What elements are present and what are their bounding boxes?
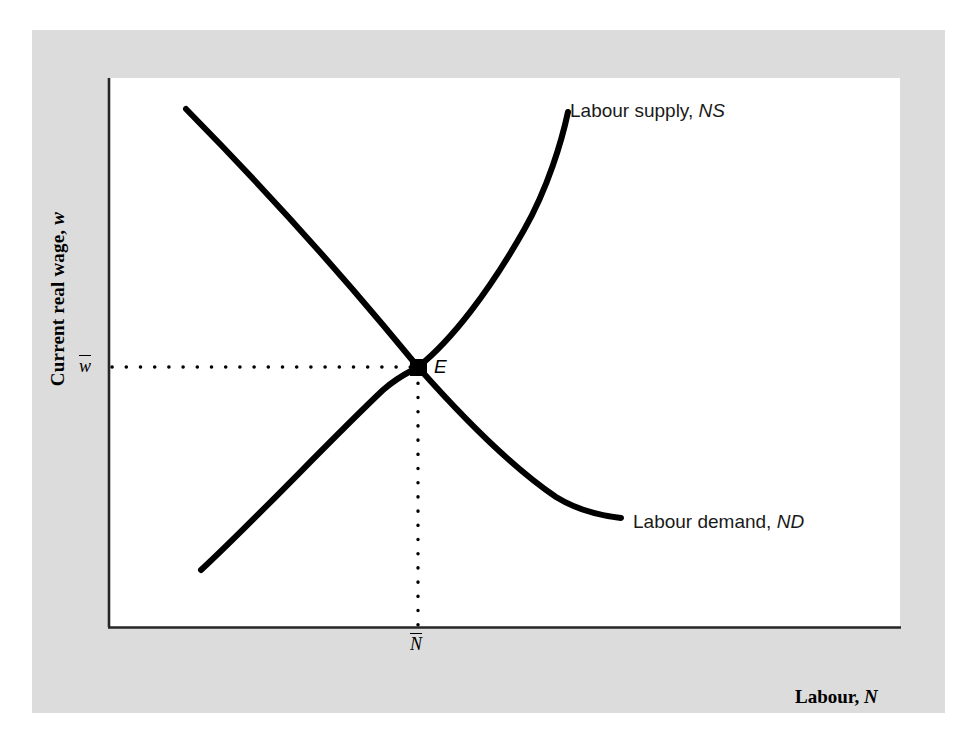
labour-supply-label: Labour supply, NS: [570, 100, 725, 122]
labour-supply-label-text: Labour supply,: [570, 100, 699, 121]
x-axis-title: Labour, N: [795, 686, 878, 708]
y-axis-title-symbol: w: [47, 212, 68, 225]
x-axis-title-symbol: N: [864, 686, 878, 707]
labour-demand-label: Labour demand, ND: [633, 511, 804, 533]
figure-container: Current real wage, w Labour, N w N E Lab…: [0, 0, 969, 731]
equilibrium-wage-tick-label: w: [78, 356, 92, 377]
labour-supply-label-symbol: NS: [699, 100, 725, 121]
chart-graphics: [0, 0, 969, 731]
labour-demand-label-symbol: ND: [777, 511, 804, 532]
equilibrium-point-label: E: [434, 356, 447, 378]
labour-bar-symbol: N: [409, 634, 423, 654]
y-axis-title: Current real wage, w: [47, 179, 69, 419]
labour-demand-label-text: Labour demand,: [633, 511, 777, 532]
wage-bar-symbol: w: [78, 356, 92, 376]
y-axis-title-text: Current real wage,: [47, 225, 68, 386]
labour-demand-curve: [186, 109, 621, 518]
x-axis-title-text: Labour,: [795, 686, 864, 707]
equilibrium-labour-tick-label: N: [409, 634, 423, 655]
equilibrium-point-marker: [410, 359, 427, 376]
